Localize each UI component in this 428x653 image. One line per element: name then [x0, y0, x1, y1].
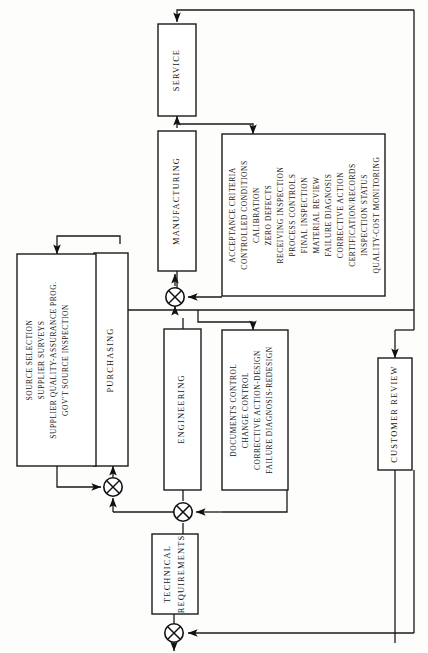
- detail-manufacturing-item-6: FINAL INSPECTION: [300, 177, 309, 253]
- connector-into-purchasing-details: [57, 236, 120, 254]
- junction-output[interactable]: [165, 624, 183, 642]
- node-customer-review-label: CUSTOMER REVIEW: [390, 365, 399, 462]
- detail-engineering-item-3: FAILURE DIAGNOSIS-REDESIGN: [265, 346, 274, 473]
- detail-box-purchasing[interactable]: SOURCE SELECTION SUPPLIER SURVEYS SUPPLI…: [17, 254, 96, 466]
- detail-box-engineering[interactable]: DOCUMENTS CONTROL CHANGE CONTROL CORRECT…: [222, 330, 288, 490]
- junction-engineering[interactable]: [174, 503, 192, 521]
- detail-manufacturing-item-7: MATERIAL REVIEW: [312, 176, 321, 253]
- node-technical-requirements-label-line2: REQUIREMENTS: [177, 535, 186, 613]
- node-service[interactable]: SERVICE: [158, 24, 196, 116]
- detail-manufacturing-item-3: ZERO DEFECTS: [264, 185, 273, 246]
- flowchart-canvas: SERVICE MANUFACTURING PURCHASING ENGINEE…: [0, 0, 428, 653]
- connector-purchasing-details-to-junction: [57, 466, 101, 487]
- node-manufacturing[interactable]: MANUFACTURING: [158, 131, 196, 271]
- detail-manufacturing-item-11: INSPECTION STATUS: [360, 174, 369, 256]
- detail-box-manufacturing[interactable]: ACCEPTANCE CRITERIA CONTROLLED CONDITION…: [222, 134, 385, 296]
- node-service-label: SERVICE: [172, 49, 181, 91]
- junction-manufacturing[interactable]: [166, 288, 184, 306]
- detail-manufacturing-item-1: CONTROLLED CONDITIONS: [240, 160, 249, 269]
- detail-manufacturing-item-0: ACCEPTANCE CRITERIA: [228, 167, 237, 263]
- detail-manufacturing-item-12: QUALITY-COST MONITORING: [372, 157, 381, 274]
- detail-manufacturing-item-9: CORRECTIVE ACTION: [336, 172, 345, 258]
- detail-manufacturing-item-5: PROCESS CONTROLS: [288, 174, 297, 257]
- node-customer-review[interactable]: CUSTOMER REVIEW: [378, 358, 412, 470]
- detail-engineering-item-0: DOCUMENTS CONTROL: [229, 363, 238, 456]
- junction-purchasing[interactable]: [104, 478, 122, 496]
- node-engineering-label: ENGINEERING: [177, 374, 186, 443]
- detail-purchasing-item-0: SOURCE SELECTION: [25, 319, 34, 400]
- detail-engineering-item-1: CHANGE CONTROL: [241, 372, 250, 448]
- node-manufacturing-label: MANUFACTURING: [172, 157, 181, 245]
- node-engineering[interactable]: ENGINEERING: [164, 329, 201, 490]
- connector-customer-to-service: [177, 10, 414, 22]
- connector-into-eng-details: [198, 310, 253, 330]
- detail-manufacturing-item-2: CALIBRATION: [252, 187, 261, 243]
- detail-purchasing-item-3: GOV'T SOURCE INSPECTION: [61, 304, 70, 416]
- node-purchasing-label: PURCHASING: [106, 327, 115, 392]
- node-purchasing[interactable]: PURCHASING: [94, 253, 128, 466]
- detail-manufacturing-item-4: RECEIVING INSPECTION: [276, 166, 285, 263]
- node-technical-requirements-label-line1: TECHNICAL: [163, 545, 172, 603]
- flowchart-svg: SERVICE MANUFACTURING PURCHASING ENGINEE…: [0, 0, 428, 653]
- detail-purchasing-item-1: SUPPLIER SURVEYS: [37, 321, 46, 400]
- node-technical-requirements[interactable]: TECHNICAL REQUIREMENTS: [152, 534, 198, 614]
- detail-manufacturing-item-8: FAILURE DIAGNOSIS: [324, 174, 333, 257]
- detail-engineering-item-2: CORRECTIVE ACTION-DESIGN: [253, 350, 262, 470]
- detail-manufacturing-item-10: CERTIFICATION/RECORDS: [348, 163, 357, 267]
- connector-eng-details-bottom: [222, 490, 287, 512]
- detail-purchasing-item-2: SUPPLIER QUALITY-ASSURANCE PROG.: [49, 281, 58, 438]
